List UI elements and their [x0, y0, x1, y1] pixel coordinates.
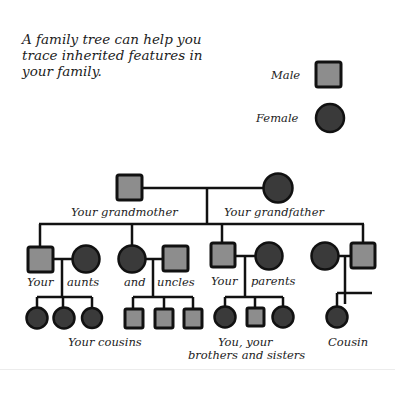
grandfather-label: Your grandfather: [224, 205, 326, 219]
gen2-label-uncles: uncles: [157, 275, 195, 289]
aunt-uncle-male-square-icon: [163, 246, 188, 271]
page-edge-divider: [0, 369, 395, 370]
gen2-label-your: Your: [27, 275, 55, 289]
female-circle-icon: [316, 104, 344, 132]
aunt-uncle-female-circle-icon: [119, 246, 146, 273]
male-square-icon: [316, 62, 341, 87]
aunt-uncle-male-square-icon: [28, 247, 53, 272]
sibling-male-square-icon: [247, 308, 264, 326]
cousins-label: Your cousins: [68, 335, 142, 349]
grandparent-male-square-icon: [117, 175, 142, 200]
gen2-label-parents: parents: [251, 274, 296, 288]
cousin-male-square-icon: [184, 309, 202, 328]
grandmother-label: Your grandmother: [71, 205, 179, 219]
siblings-label-line-1: You, your: [218, 335, 274, 349]
cousin-male-square-icon: [125, 309, 143, 328]
sibling-female-circle-icon: [215, 307, 236, 328]
grandparent-female-circle-icon: [264, 174, 293, 203]
cousin-male-square-icon: [155, 309, 173, 328]
aunt-uncle-female-circle-icon: [312, 243, 339, 270]
generation-1: Your grandmother Your grandfather: [71, 174, 326, 225]
cousin-female-circle-icon: [327, 307, 348, 328]
cousin-female-circle-icon: [27, 308, 48, 329]
parent-male-square-icon: [211, 243, 235, 267]
gen2-label-and: and: [124, 275, 146, 289]
legend-female-label: Female: [255, 111, 299, 125]
family-tree-diagram: Male Female Your grandmother Your grandf…: [0, 0, 395, 393]
legend-male-label: Male: [270, 68, 300, 82]
aunt-uncle-male-square-icon: [351, 243, 375, 268]
parent-female-circle-icon: [256, 243, 283, 270]
generation-2: Your aunts and uncles Your parents: [27, 243, 375, 305]
cousin-female-circle-icon: [82, 308, 102, 328]
single-cousin-label: Cousin: [328, 335, 368, 349]
cousin-female-circle-icon: [54, 308, 75, 329]
generation-3: Your cousins You, your brothers and sist…: [27, 293, 373, 362]
legend: Male Female: [255, 62, 344, 132]
siblings-label-line-2: brothers and sisters: [188, 348, 305, 362]
gen2-label-aunts: aunts: [67, 275, 99, 289]
sibling-female-circle-icon: [273, 307, 294, 328]
aunt-uncle-female-circle-icon: [73, 246, 100, 273]
generation-2-connector: [39, 224, 364, 247]
gen2-label-your-2: Your: [211, 274, 239, 288]
